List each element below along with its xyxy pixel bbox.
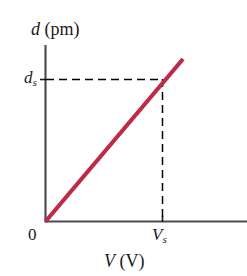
y-axis-title: d (pm) (31, 20, 80, 38)
x-axis-tick-label-vs: Vs (152, 226, 167, 245)
x-axis-title-unit: (V) (120, 251, 145, 271)
y-axis-title-unit: (pm) (45, 19, 80, 39)
y-tick-variable: d (24, 68, 33, 87)
y-axis-tick-label-ds: ds (24, 69, 37, 88)
plot-area (0, 0, 247, 276)
origin-label: 0 (28, 226, 37, 243)
x-axis-title: V (V) (104, 252, 145, 270)
y-axis-title-variable: d (31, 19, 40, 39)
x-tick-variable: V (152, 225, 162, 244)
x-axis-title-variable: V (104, 251, 115, 271)
x-tick-subscript: s (162, 233, 166, 245)
y-tick-subscript: s (33, 76, 37, 88)
graph-figure: d (pm) V (V) ds Vs 0 (0, 0, 247, 276)
